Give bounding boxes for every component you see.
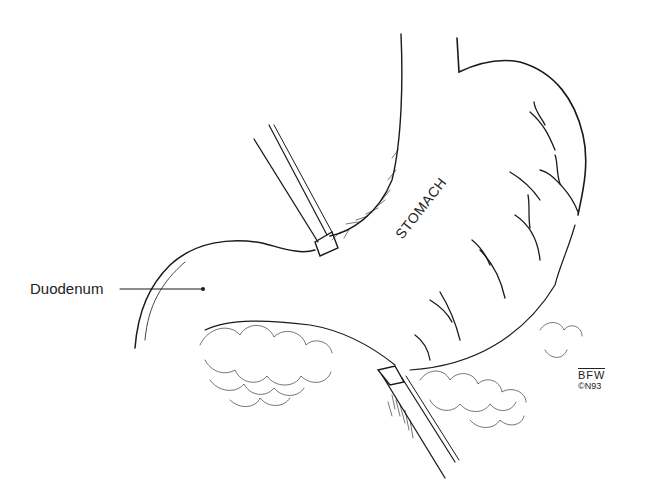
greater-curvature-lower (410, 225, 575, 370)
duodenum-pointer-dot (201, 287, 205, 291)
illustration: Duodenum STOMACH BFW ©N93 (0, 0, 649, 498)
vessel-branches (415, 102, 578, 360)
lower-clamp-tip (378, 366, 404, 385)
lesser-curvature-outline (330, 34, 402, 236)
signature-year: ©N93 (578, 381, 605, 392)
upper-clamp-jaw-right-b (274, 125, 332, 232)
shadow-hatching (388, 395, 413, 438)
stomach-drawing (0, 0, 649, 498)
duodenum-inner-line (145, 262, 185, 340)
signature-initials: BFW (578, 368, 605, 381)
upper-clamp-jaw-left (254, 139, 318, 242)
pyloric-lower-border (205, 321, 395, 365)
duodenum-label: Duodenum (30, 280, 103, 297)
duodenum-outline (135, 241, 315, 348)
upper-clamp-jaw-right-a (269, 125, 327, 235)
artist-signature: BFW ©N93 (578, 368, 605, 392)
lesser-curvature-hatching (332, 150, 398, 240)
lower-clamp-jaw-left (382, 375, 445, 478)
lower-clamp-jaw-right-b (406, 376, 459, 460)
greater-curvature-outline (457, 38, 586, 215)
